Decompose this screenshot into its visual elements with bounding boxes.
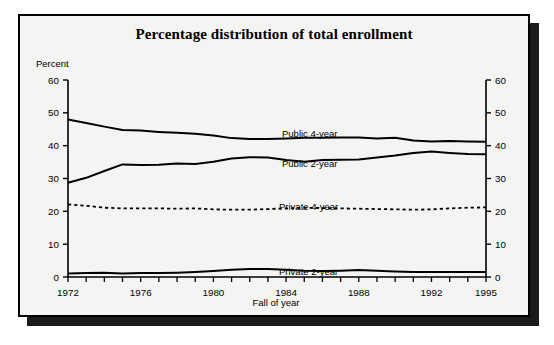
series-line-public-4-year bbox=[68, 119, 486, 141]
y-tick-label-right: 60 bbox=[495, 75, 506, 86]
series-label-private-2-year: Private 2-year bbox=[279, 266, 338, 277]
y-tick-label-left: 30 bbox=[48, 173, 59, 184]
series-line-private-2-year bbox=[68, 269, 486, 273]
y-tick-label-right: 30 bbox=[495, 173, 506, 184]
series-label-public-4-year: Public 4-year bbox=[282, 128, 337, 139]
figure-root: Percentage distribution of total enrollm… bbox=[0, 0, 554, 345]
series-line-public-2-year bbox=[68, 152, 486, 183]
y-tick-label-right: 0 bbox=[495, 272, 501, 283]
y-tick-label-left: 60 bbox=[48, 75, 59, 86]
y-tick-label-right: 10 bbox=[495, 239, 506, 250]
y-tick-label-right: 20 bbox=[495, 206, 506, 217]
y-tick-label-right: 50 bbox=[495, 107, 506, 118]
y-tick-label-left: 40 bbox=[48, 140, 59, 151]
plot-area: 0102030405060010203040506019721976198019… bbox=[20, 16, 532, 319]
y-tick-label-left: 10 bbox=[48, 239, 59, 250]
y-tick-label-left: 20 bbox=[48, 206, 59, 217]
series-label-private-4-year: Private 4-year bbox=[279, 201, 338, 212]
y-tick-label-left: 50 bbox=[48, 107, 59, 118]
series-line-private-4-year bbox=[68, 204, 486, 209]
y-tick-label-left: 0 bbox=[54, 272, 60, 283]
x-axis-caption: Fall of year bbox=[20, 297, 532, 308]
y-tick-label-right: 40 bbox=[495, 140, 506, 151]
series-label-public-2-year: Public 2-year bbox=[282, 158, 337, 169]
line-chart-svg: 0102030405060010203040506019721976198019… bbox=[20, 16, 532, 319]
chart-panel: Percentage distribution of total enrollm… bbox=[18, 14, 530, 317]
